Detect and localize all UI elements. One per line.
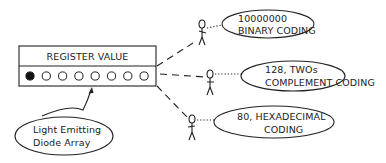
- dashed-line-hex: [157, 86, 187, 117]
- led-off: [75, 72, 83, 80]
- dashed-line-binary: [157, 43, 193, 66]
- observer-hex: 80, HEXADECIMAL CODING: [188, 106, 334, 140]
- led-off: [107, 72, 115, 80]
- twos-value: 128, TWOs: [265, 64, 318, 75]
- led-callout: Light Emitting Diode Array: [15, 117, 113, 155]
- arrow-head: [89, 87, 94, 94]
- led-off: [124, 72, 132, 80]
- led-off: [42, 72, 50, 80]
- observer-binary: 10000000 BINARY CODING: [199, 10, 316, 45]
- observer-lines: [157, 43, 205, 117]
- led-off: [140, 72, 148, 80]
- observer-twos: 128, TWOs COMPLEMENT CODING: [207, 61, 375, 95]
- binary-coding-label: BINARY CODING: [238, 25, 316, 36]
- twos-coding-label: COMPLEMENT CODING: [265, 77, 375, 88]
- stick-figure-icon: [199, 20, 206, 45]
- register-interpretation-diagram: REGISTER VALUE Light Emitting Diode Arra…: [0, 0, 386, 163]
- hex-coding-label: CODING: [264, 124, 303, 135]
- led-callout-line2: Diode Array: [33, 137, 91, 148]
- dotted-link-binary: [207, 25, 222, 28]
- stick-figure-icon: [207, 70, 214, 95]
- register-title: REGISTER VALUE: [47, 51, 129, 62]
- dashed-line-twos: [160, 74, 205, 77]
- led-on: [26, 72, 34, 80]
- stick-figure-icon: [188, 115, 195, 140]
- led-off: [59, 72, 67, 80]
- arrow-shaft: [42, 90, 91, 116]
- led-callout-line1: Light Emitting: [33, 124, 101, 135]
- register-box: REGISTER VALUE: [19, 46, 156, 86]
- callout-arrow: [42, 87, 94, 116]
- binary-value: 10000000: [238, 13, 287, 24]
- led-off: [91, 72, 99, 80]
- hex-value: 80, HEXADECIMAL: [237, 111, 326, 122]
- led-array: [26, 72, 148, 80]
- led-callout-ellipse: [15, 117, 113, 155]
